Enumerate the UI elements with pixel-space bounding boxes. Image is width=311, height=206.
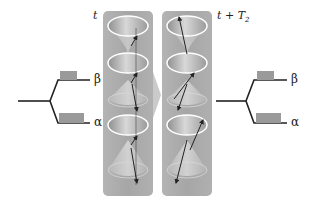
beta-population-box	[257, 71, 274, 80]
energy-diagram-right	[216, 71, 287, 123]
alpha-population-box	[59, 113, 84, 123]
beta-population-box	[60, 71, 77, 80]
time-label-end: t + T2	[217, 9, 249, 24]
level-label-beta-left: β	[94, 72, 101, 86]
time-label-start: t	[93, 9, 97, 22]
time-label-end-subscript: 2	[245, 16, 249, 24]
level-label-beta-right: β	[291, 72, 298, 86]
panel-t-plus-T2	[162, 11, 212, 196]
alpha-population-box	[256, 113, 281, 123]
energy-diagram-left	[18, 71, 90, 123]
nmr-relaxation-diagram	[0, 0, 311, 206]
level-label-alpha-right: α	[291, 115, 299, 129]
chevron-right-icon	[153, 72, 161, 118]
panel-t	[103, 11, 153, 196]
level-label-alpha-left: α	[94, 115, 102, 129]
time-label-end-main: t + T	[217, 9, 245, 22]
